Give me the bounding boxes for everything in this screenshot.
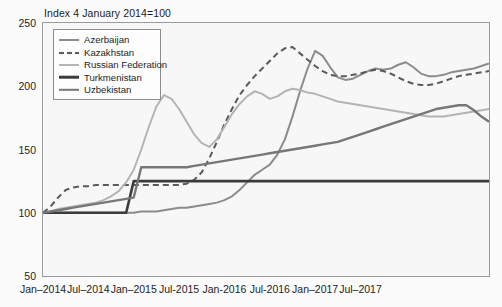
chart-title: Index 4 January 2014=100 <box>44 7 171 19</box>
legend-swatch-icon <box>59 60 79 70</box>
legend-item-uzbekistan: Uzbekistan <box>59 84 156 96</box>
y-tick-150: 150 <box>18 144 36 156</box>
y-axis-tick-labels: 50100150200250 <box>0 0 36 307</box>
legend-item-kazakhstan: Kazakhstan <box>59 46 156 58</box>
y-tick-100: 100 <box>18 207 36 219</box>
legend-label: Azerbaijan <box>84 35 129 45</box>
x-tick-4: Jan-2016 <box>203 283 247 295</box>
chart-legend: AzerbaijanKazakhstanRussian FederationTu… <box>53 29 161 100</box>
legend-label: Russian Federation <box>84 60 167 70</box>
y-tick-250: 250 <box>18 17 36 29</box>
legend-swatch-icon <box>59 72 79 82</box>
x-tick-6: Jan–2017 <box>292 283 338 295</box>
x-tick-0: Jan–2014 <box>20 283 66 295</box>
x-tick-2: Jan–2015 <box>111 283 157 295</box>
x-tick-3: Jul-2015 <box>159 283 199 295</box>
legend-label: Turkmenistan <box>84 73 142 83</box>
y-tick-50: 50 <box>24 270 36 282</box>
series-line-russian-federation <box>43 89 489 213</box>
x-tick-7: Jul–2017 <box>339 283 382 295</box>
legend-swatch-icon <box>59 85 79 95</box>
legend-label: Uzbekistan <box>84 85 131 95</box>
legend-item-russian-federation: Russian Federation <box>59 59 156 71</box>
y-tick-200: 200 <box>18 80 36 92</box>
x-tick-5: Jul-2016 <box>250 283 290 295</box>
legend-item-turkmenistan: Turkmenistan <box>59 71 156 83</box>
legend-swatch-icon <box>59 35 79 45</box>
chart-figure: Index 4 January 2014=100 50100150200250 … <box>0 0 502 307</box>
x-tick-1: Jul–2014 <box>67 283 110 295</box>
legend-item-azerbaijan: Azerbaijan <box>59 34 156 46</box>
legend-label: Kazakhstan <box>84 48 134 58</box>
legend-swatch-icon <box>59 48 79 58</box>
